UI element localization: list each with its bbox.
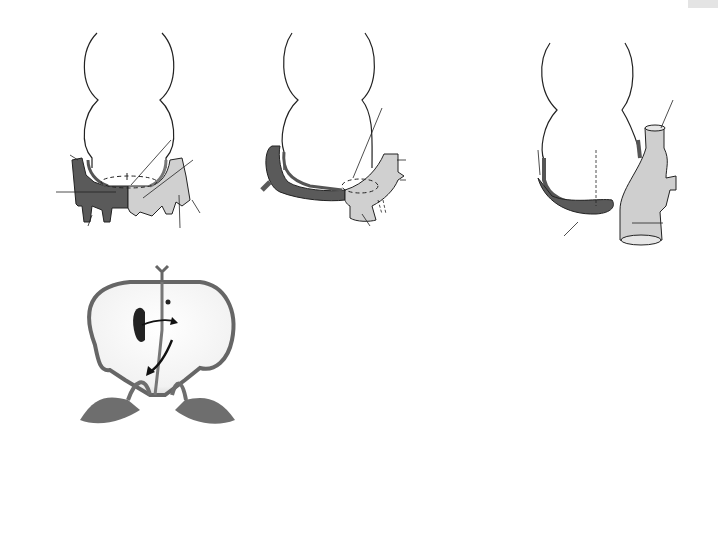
panel-c-drawing (538, 43, 676, 245)
panel-d-drawing (72, 266, 235, 424)
diagram-canvas (0, 0, 726, 548)
panel-a-drawing (56, 33, 200, 228)
panel-b-drawing (262, 33, 406, 226)
